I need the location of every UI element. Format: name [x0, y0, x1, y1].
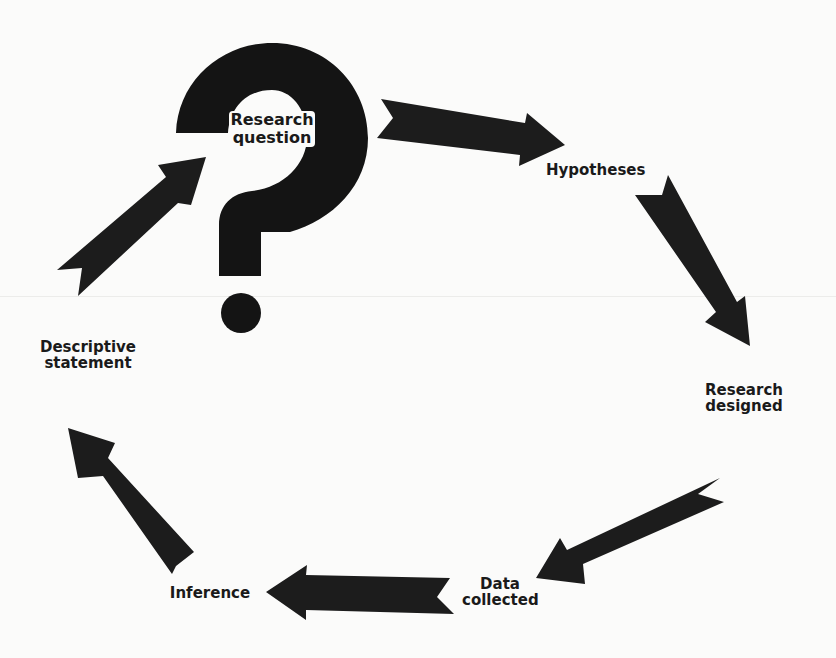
question-mark-icon [176, 43, 368, 333]
node-inference: Inference [162, 585, 258, 601]
node-label-line2: designed [704, 398, 784, 414]
node-hypotheses: Hypotheses [546, 162, 640, 178]
arrow-to-inference-icon [266, 565, 454, 620]
arrow-to-descriptive-statement-icon [68, 428, 194, 574]
node-label-line2: question [229, 129, 315, 147]
node-descriptive-statement: Descriptive statement [36, 339, 140, 371]
arrow-to-hypotheses-icon [377, 99, 565, 166]
arrow-to-research-designed-icon [635, 175, 750, 346]
node-label-line2: statement [36, 355, 140, 371]
diagram-graphics [0, 0, 836, 658]
node-research-designed: Research designed [704, 382, 784, 414]
node-label-line1: Research [229, 111, 315, 129]
node-research-question: Research question [229, 111, 315, 147]
node-label-line2: collected [462, 592, 538, 608]
node-label-line1: Inference [162, 585, 258, 601]
node-data-collected: Data collected [462, 576, 538, 608]
arrow-to-data-collected-icon [536, 478, 724, 584]
node-label-line1: Research [704, 382, 784, 398]
node-label-line1: Data [462, 576, 538, 592]
node-label-line1: Hypotheses [546, 162, 640, 178]
research-cycle-diagram: Research question Hypotheses Research de… [0, 0, 836, 658]
arrow-to-research-question-icon [57, 157, 206, 296]
node-label-line1: Descriptive [36, 339, 140, 355]
